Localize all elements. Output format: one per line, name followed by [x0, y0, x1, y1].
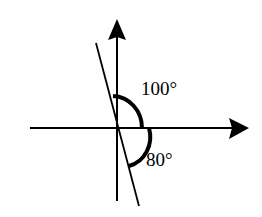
- horizontal-arrowhead-icon: [229, 118, 249, 139]
- angle-label-80: 80°: [146, 150, 173, 169]
- angle-label-100: 100°: [141, 79, 177, 98]
- vertical-arrowhead-icon: [108, 19, 126, 40]
- angle-diagram: [0, 0, 262, 217]
